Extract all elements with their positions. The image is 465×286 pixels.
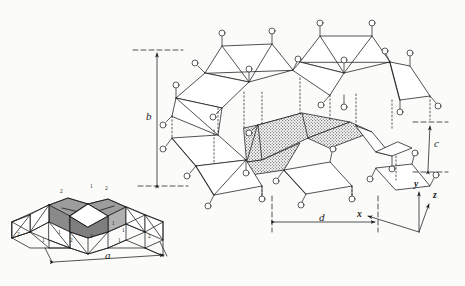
axis-triad: [368, 192, 429, 232]
small-label-5: 1: [112, 221, 115, 227]
small-label-11: 1: [118, 238, 121, 244]
label-dimension-b: b: [146, 111, 152, 122]
label-axis-z: z: [433, 191, 437, 201]
small-label-2: 2: [105, 186, 108, 192]
label-dimension-a: a: [105, 250, 111, 261]
main-framework-drawing: [160, 20, 441, 209]
tetrahedron-bottom-right: [376, 164, 430, 190]
small-label-9: 2: [70, 238, 73, 244]
small-label-10: 2: [90, 234, 93, 240]
label-axis-x: x: [357, 210, 362, 220]
tetrahedron-upper-right-side: [293, 62, 344, 95]
dimension-c: [413, 122, 448, 172]
label-dimension-d: d: [319, 212, 325, 223]
label-axis-y: y: [414, 180, 418, 190]
small-label-0: 2: [60, 189, 63, 195]
small-label-4: 1: [58, 230, 61, 236]
tetrahedron-far-right-side: [390, 62, 430, 100]
small-label-1: 1: [90, 184, 93, 190]
dimension-d: [272, 196, 378, 232]
tetrahedron-bottom-center: [284, 162, 352, 194]
figure-container: b c d a y z x 2 1 2 1 1 1 1 2 1 2 2 1 2: [0, 0, 465, 286]
small-label-6: 1: [122, 228, 125, 234]
small-label-12: 2: [148, 234, 151, 240]
small-label-8: 1: [42, 238, 45, 244]
small-label-3: 1: [68, 219, 71, 225]
label-dimension-c: c: [434, 138, 439, 149]
small-framework-drawing: [12, 198, 163, 256]
small-label-7: 2: [17, 232, 20, 238]
